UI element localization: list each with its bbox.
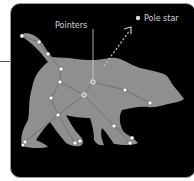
star-icon — [20, 34, 24, 38]
star-icon — [46, 52, 50, 56]
star-icon — [21, 143, 25, 147]
bear-silhouette — [20, 33, 184, 148]
pole-star-label: Pole star — [144, 14, 179, 23]
star-icon — [128, 141, 132, 145]
star-icon — [112, 124, 116, 128]
star-icon — [56, 113, 60, 117]
star-icon — [59, 67, 63, 71]
pole-star-icon — [136, 16, 140, 20]
pointer-star-icon — [82, 93, 86, 97]
pointers-label: Pointers — [55, 21, 87, 30]
star-icon — [58, 80, 62, 84]
pointer-star-icon — [91, 80, 95, 84]
star-icon — [123, 88, 127, 92]
star-icon — [130, 136, 134, 140]
star-icon — [37, 40, 41, 44]
star-icon — [49, 96, 53, 100]
star-icon — [78, 139, 82, 143]
ursa-major-diagram: Pointers Pole star — [0, 0, 194, 181]
star-icon — [73, 141, 77, 145]
star-icon — [148, 101, 152, 105]
